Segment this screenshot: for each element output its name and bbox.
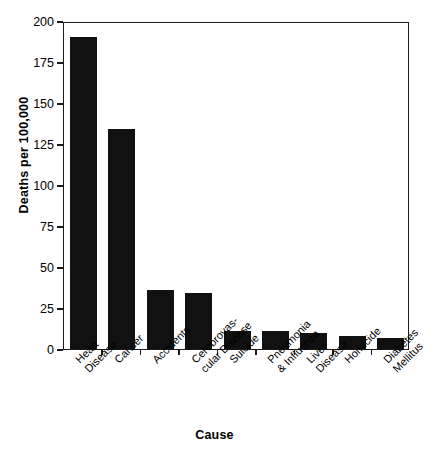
x-tick-mark bbox=[140, 350, 141, 355]
bar bbox=[70, 37, 97, 349]
x-axis-title: Cause bbox=[0, 428, 429, 442]
x-tick-mark bbox=[371, 350, 372, 355]
bar-chart-figure: Deaths per 100,000 025507510012515017520… bbox=[0, 0, 429, 455]
x-tick-mark bbox=[255, 350, 256, 355]
y-tick-label: 175 bbox=[33, 55, 54, 71]
y-tick-label: 75 bbox=[40, 219, 54, 235]
y-tick-label: 200 bbox=[33, 14, 54, 30]
plot-area bbox=[63, 22, 409, 350]
x-tick-mark bbox=[178, 350, 179, 355]
y-tick-label: 25 bbox=[40, 301, 54, 317]
bar bbox=[108, 129, 135, 349]
y-tick-label: 50 bbox=[40, 260, 54, 276]
y-axis-title: Deaths per 100,000 bbox=[17, 65, 31, 245]
y-tick-label: 125 bbox=[33, 137, 54, 153]
y-tick-label: 0 bbox=[47, 342, 54, 358]
y-tick-label: 150 bbox=[33, 96, 54, 112]
y-tick-label: 100 bbox=[33, 178, 54, 194]
